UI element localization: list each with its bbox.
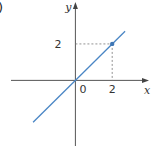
y-axis-label: y [64, 1, 72, 14]
data-point [110, 42, 114, 46]
x-axis-label: x [144, 84, 151, 97]
x-tick-label: 2 [109, 83, 116, 96]
axes [11, 2, 149, 146]
y-axis-arrow [73, 2, 78, 9]
chart: ) x y 0 22 [0, 0, 154, 148]
points-group [110, 42, 114, 46]
x-axis-arrow [142, 78, 149, 83]
y-tick-label: 2 [54, 38, 61, 51]
origin-label: 0 [79, 83, 86, 96]
panel-label: ) [0, 0, 3, 15]
